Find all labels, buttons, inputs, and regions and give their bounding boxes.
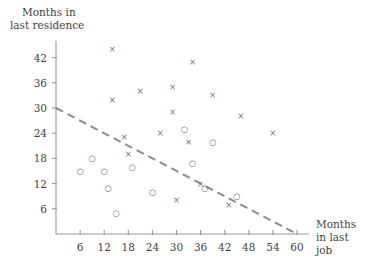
data-point-o: ○	[189, 158, 196, 168]
data-point-x: ×	[157, 128, 164, 138]
data-point-x: ×	[269, 128, 276, 138]
data-point-x: ×	[173, 195, 180, 205]
data-point-o: ○	[113, 208, 120, 218]
data-point-x: ×	[225, 200, 232, 210]
data-point-x: ×	[169, 82, 176, 92]
y-axis-tick-label: 42	[34, 52, 47, 64]
y-axis-tick-label: 12	[34, 178, 47, 190]
y-axis-tick-label: 6	[40, 203, 47, 215]
data-point-o: ○	[209, 137, 216, 147]
x-axis-tick-label: 12	[98, 241, 111, 253]
x-axis-tick-label: 42	[218, 241, 231, 253]
data-point-o: ○	[88, 153, 95, 163]
data-point-o: ○	[201, 183, 208, 193]
x-axis-tick-label: 24	[146, 241, 160, 253]
data-point-x: ×	[137, 86, 144, 96]
x-axis-tick-label: 30	[170, 241, 183, 253]
y-axis-tick-label: 30	[34, 102, 47, 114]
y-axis-title: last residence	[10, 19, 84, 31]
x-axis-tick-label: 60	[290, 241, 303, 253]
data-point-o: ○	[129, 162, 136, 172]
x-axis-tick-label: 36	[194, 241, 208, 253]
data-point-o: ○	[149, 187, 156, 197]
data-point-x: ×	[125, 149, 132, 159]
y-axis-tick-label: 18	[34, 152, 47, 164]
x-axis-tick-label: 18	[122, 241, 135, 253]
data-point-o: ○	[105, 183, 112, 193]
x-axis-tick-label: 54	[266, 241, 280, 253]
y-axis-tick-label: 24	[34, 127, 48, 139]
data-point-o: ○	[233, 191, 240, 201]
chart-canvas: 61218243036426121824303642485460××××××××…	[0, 0, 373, 266]
data-point-x: ×	[237, 111, 244, 121]
data-point-x: ×	[169, 107, 176, 117]
scatter-plot-figure: 61218243036426121824303642485460××××××××…	[0, 0, 373, 266]
data-point-o: ○	[181, 124, 188, 134]
data-point-x: ×	[209, 90, 216, 100]
x-axis-title: job	[314, 244, 333, 256]
x-axis-title: in last	[316, 231, 349, 243]
data-point-x: ×	[109, 95, 116, 105]
x-axis-title: Months	[316, 218, 356, 230]
trend-line	[56, 108, 297, 234]
data-point-o: ○	[76, 166, 83, 176]
data-point-o: ○	[100, 166, 107, 176]
y-axis-title: Months in	[22, 6, 76, 18]
data-point-x: ×	[121, 132, 128, 142]
data-point-x: ×	[185, 137, 192, 147]
x-axis-tick-label: 6	[77, 241, 84, 253]
data-point-x: ×	[109, 44, 116, 54]
data-point-x: ×	[189, 57, 196, 67]
y-axis-tick-label: 36	[34, 77, 48, 89]
x-axis-tick-label: 48	[242, 241, 255, 253]
